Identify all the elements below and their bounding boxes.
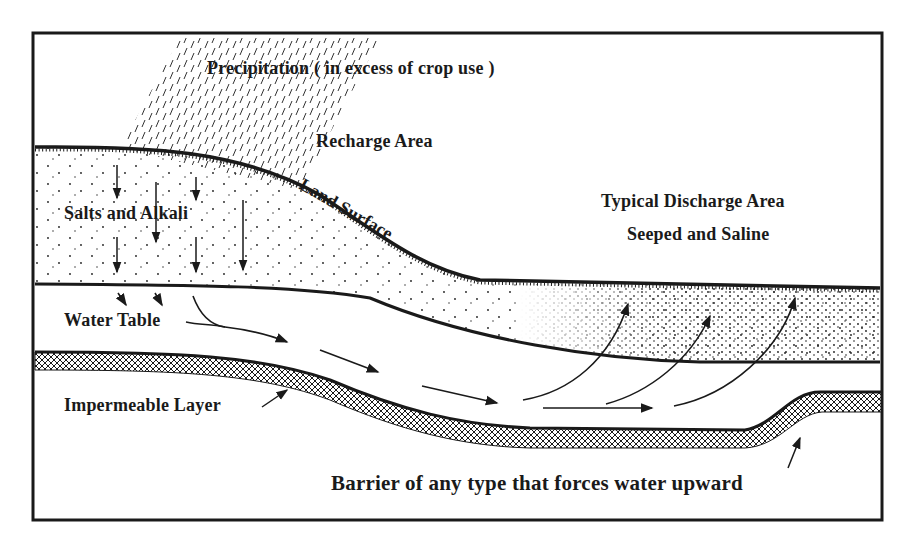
- label-precipitation: Precipitation ( in excess of crop use ): [207, 58, 495, 79]
- barrier-pointer: [788, 438, 800, 468]
- label-discharge-area: Typical Discharge Area: [601, 191, 785, 212]
- label-seeped-saline: Seeped and Saline: [627, 224, 769, 245]
- water-table-pointer: [186, 322, 225, 327]
- label-barrier: Barrier of any type that forces water up…: [331, 471, 743, 496]
- impermeable-layer-pointer: [262, 390, 287, 407]
- label-salts-alkali: Salts and Alkali: [64, 203, 188, 224]
- groundwater-diagram: Land Surface Precipitation ( in excess o…: [0, 0, 915, 548]
- label-water-table: Water Table: [64, 310, 160, 331]
- label-recharge-area: Recharge Area: [316, 131, 433, 152]
- label-impermeable-layer: Impermeable Layer: [64, 395, 221, 416]
